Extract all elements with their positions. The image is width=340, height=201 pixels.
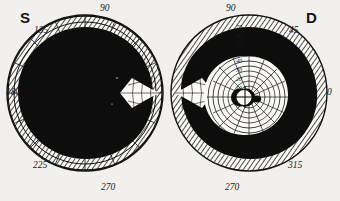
right-eccentricity-label-20-5: 20	[236, 76, 242, 82]
right-eccentricity-label-10-6: 10	[236, 85, 242, 91]
right-meridian-label-45-1: 45	[289, 26, 299, 36]
blind-spot	[253, 95, 261, 102]
left-meridian-label-135-1: 135	[34, 26, 48, 36]
left-meridian-label-225-3: 225	[33, 161, 47, 171]
left-eye-chart	[7, 15, 163, 171]
right-meridian-label-0-2: 0	[327, 88, 332, 98]
right-eccentricity-label-70-0: 70	[236, 24, 242, 30]
right-eye-identifier: D	[306, 10, 317, 25]
right-eccentricity-label-60-1: 60	[236, 33, 242, 39]
left-meridian-label-90-0: 90	[100, 4, 110, 14]
left-meridian-label-270-4: 270	[101, 183, 115, 193]
right-eccentricity-label-50-2: 50	[236, 42, 242, 48]
perimetry-figure: S D 901351802252709045031527070605040302…	[0, 0, 340, 201]
left-eye-identifier: S	[20, 10, 30, 25]
right-eccentricity-label-30-4: 30	[236, 67, 242, 73]
right-eye-chart	[171, 15, 327, 171]
right-meridian-label-270-4: 270	[225, 183, 239, 193]
right-meridian-label-90-0: 90	[226, 4, 236, 14]
right-eccentricity-label-40-3: 40	[236, 58, 242, 64]
right-meridian-label-315-3: 315	[288, 161, 302, 171]
left-meridian-label-180-2: 180	[6, 88, 20, 98]
